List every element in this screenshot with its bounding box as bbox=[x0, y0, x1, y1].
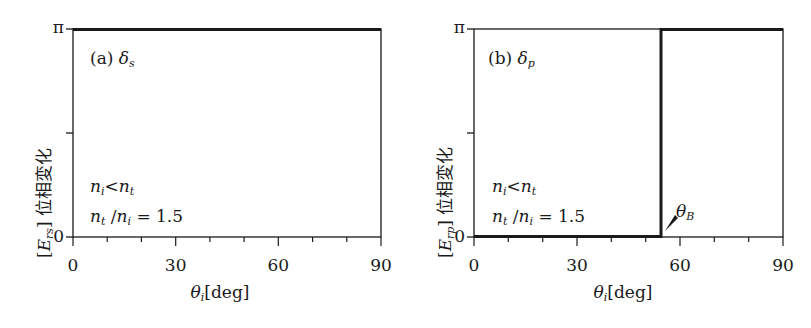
plot-a-xticks bbox=[73, 237, 381, 246]
x-axis-label: θi[deg] bbox=[191, 282, 250, 304]
xtick-30: 30 bbox=[165, 255, 187, 275]
panel-b-title: (b) δp bbox=[488, 48, 535, 70]
panel-b: π 0 0 30 60 90 θi[deg] [Erp] 位相変化 (b) δp… bbox=[401, 0, 806, 328]
xtick-60: 60 bbox=[267, 255, 289, 275]
xtick-90: 90 bbox=[772, 255, 794, 275]
brewster-angle-label: θB bbox=[676, 201, 694, 223]
condition-index-ratio: nt /ni = 1.5 bbox=[90, 206, 183, 228]
ytick-pi: π bbox=[44, 17, 64, 37]
plot-a-canvas bbox=[0, 0, 405, 328]
panel-a-title: (a) δs bbox=[90, 48, 135, 70]
condition-index-ratio: nt /ni = 1.5 bbox=[492, 206, 585, 228]
xtick-60: 60 bbox=[669, 255, 691, 275]
ytick-pi: π bbox=[445, 17, 465, 37]
xtick-0: 0 bbox=[469, 255, 480, 275]
condition-index-inequality: ni<nt bbox=[492, 176, 536, 198]
condition-index-inequality: ni<nt bbox=[90, 176, 134, 198]
xtick-0: 0 bbox=[68, 255, 79, 275]
xtick-90: 90 bbox=[370, 255, 392, 275]
x-axis-label: θi[deg] bbox=[594, 282, 653, 304]
plot-b-xticks bbox=[474, 237, 783, 246]
plot-b-canvas bbox=[401, 0, 806, 328]
panel-a: π 0 0 30 60 90 θi[deg] [Ers] 位相変化 (a) δs… bbox=[0, 0, 405, 328]
y-axis-label: [Ers] 位相変化 bbox=[30, 148, 56, 258]
y-axis-label: [Erp] 位相変化 bbox=[431, 147, 457, 258]
xtick-30: 30 bbox=[566, 255, 588, 275]
